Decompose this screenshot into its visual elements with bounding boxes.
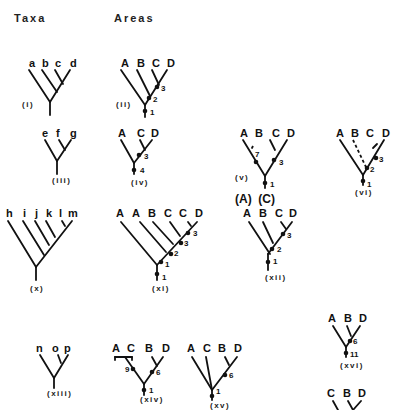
- tip-label: m: [68, 207, 78, 219]
- node-number: 2: [153, 95, 158, 104]
- branch-line: [249, 222, 270, 254]
- tip-label: B: [145, 342, 153, 354]
- node-dot-icon: [159, 260, 164, 265]
- node-number: 3: [193, 229, 198, 238]
- tip-label: k: [46, 207, 53, 219]
- tip-label: D: [167, 57, 175, 69]
- tip-label: a: [29, 57, 36, 69]
- node-dot-icon: [348, 339, 353, 344]
- branch-line: [54, 355, 68, 378]
- node-number: 1: [165, 260, 170, 269]
- tip-label: D: [151, 127, 159, 139]
- tip-label: f: [56, 127, 60, 139]
- tip-label: C: [137, 127, 145, 139]
- branch-line: [35, 221, 49, 245]
- node-dot-icon: [374, 156, 379, 161]
- branch-line: [140, 222, 166, 252]
- tip-label: A: [112, 342, 120, 354]
- branch-line: [265, 140, 287, 176]
- node-number: 6: [229, 371, 234, 380]
- cladogram-xvi: ABD611(xvi): [328, 312, 367, 370]
- branch-line: [340, 140, 363, 175]
- tree-caption: (xv): [210, 401, 230, 410]
- tip-label: B: [259, 207, 267, 219]
- header-taxa: Taxa: [14, 12, 46, 24]
- node-dot-icon: [186, 231, 191, 236]
- branch-line: [8, 221, 36, 267]
- branch-line: [152, 357, 157, 366]
- branch-line: [40, 355, 54, 378]
- tip-label: A: [121, 57, 129, 69]
- tree-caption: (xii): [265, 273, 287, 282]
- node-dot-icon: [281, 232, 286, 237]
- branch-line: [281, 222, 286, 229]
- tree-caption: (i): [22, 100, 34, 109]
- tip-label: B: [255, 127, 263, 139]
- tip-label: C: [327, 387, 335, 399]
- node-dot-icon: [143, 109, 148, 114]
- branch-line: [137, 70, 150, 96]
- branch-line: [170, 222, 180, 236]
- tree-caption: (ii): [116, 100, 132, 109]
- node-number: 1: [150, 108, 155, 117]
- branch-line: [29, 70, 50, 102]
- tip-label: A: [187, 342, 195, 354]
- node-dot-icon: [131, 367, 136, 372]
- cladograms-group: abcd(i)ABCD321(ii)efg(iii)ACD34(iv)ABCD7…: [6, 57, 390, 410]
- node-dot-icon: [147, 96, 152, 101]
- node-number: 9: [125, 365, 130, 374]
- cladogram-i: abcd(i): [22, 57, 77, 115]
- tip-label: C: [366, 127, 374, 139]
- node-dot-icon: [254, 160, 259, 165]
- branch-line: [333, 401, 338, 410]
- node-number: 4: [140, 166, 145, 175]
- dashed-branch-line: [251, 146, 253, 150]
- node-dot-icon: [179, 241, 184, 246]
- cladogram-iii: efg(iii): [42, 127, 77, 185]
- branch-line: [45, 140, 57, 161]
- node-number: 3: [144, 152, 149, 161]
- tip-label: D: [195, 207, 203, 219]
- node-number: 6: [353, 337, 358, 346]
- node-number: 3: [161, 84, 166, 93]
- node-number: 7: [255, 150, 260, 159]
- tip-label: B: [218, 342, 226, 354]
- node-dot-icon: [223, 373, 228, 378]
- tip-label: p: [64, 342, 71, 354]
- node-number: 1: [162, 273, 167, 282]
- tip-label: D: [382, 127, 390, 139]
- tip-label: C: [203, 342, 211, 354]
- annotations-group: (A) (C): [235, 192, 275, 206]
- branch-line: [62, 221, 65, 226]
- tip-label: g: [70, 127, 77, 139]
- node-dot-icon: [263, 181, 268, 186]
- tip-label: C: [152, 57, 160, 69]
- tip-label: A: [132, 207, 140, 219]
- tip-label: C: [164, 207, 172, 219]
- node-number: 1: [216, 387, 221, 396]
- tip-label: b: [42, 57, 49, 69]
- branch-line: [348, 401, 353, 410]
- node-dot-icon: [169, 252, 174, 257]
- node-number: 2: [370, 165, 375, 174]
- tip-label: A: [118, 127, 126, 139]
- node-dot-icon: [155, 85, 160, 90]
- node-dot-icon: [266, 260, 271, 265]
- tip-label: i: [23, 207, 26, 219]
- tip-label: B: [343, 387, 351, 399]
- tip-label: A: [243, 207, 251, 219]
- tip-label: h: [6, 207, 13, 219]
- branch-line: [263, 222, 273, 243]
- branch-line: [353, 401, 361, 410]
- branch-line: [333, 326, 346, 347]
- branch-line: [373, 144, 377, 148]
- tree-caption: (xi): [152, 284, 170, 293]
- branch-line: [42, 70, 57, 92]
- tree-caption: (x): [30, 284, 44, 293]
- tip-label: A: [116, 207, 124, 219]
- tip-label: B: [344, 312, 352, 324]
- branch-line: [58, 355, 61, 363]
- branch-line: [46, 221, 55, 237]
- tree-caption: (xiv): [140, 395, 164, 404]
- tree-caption: (iii): [52, 176, 72, 185]
